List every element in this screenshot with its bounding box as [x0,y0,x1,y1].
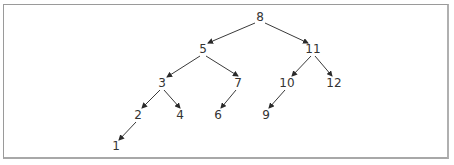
node-10: 10 [279,76,294,90]
node-5: 5 [199,42,207,56]
edge-3-4 [164,90,180,108]
node-12: 12 [326,76,341,90]
tree-diagram: 8 5 11 3 7 10 12 2 4 6 9 1 [0,0,454,165]
edge-11-10 [292,56,311,76]
node-3: 3 [158,76,166,90]
edge-5-7 [206,56,238,76]
edge-5-3 [167,56,200,77]
node-9: 9 [262,108,270,122]
node-2: 2 [134,108,142,122]
edge-3-2 [142,90,160,108]
edge-8-11 [265,23,308,43]
edge-11-12 [315,56,332,76]
edge-10-9 [269,90,285,108]
node-11: 11 [305,42,320,56]
edge-8-5 [208,23,255,43]
node-8: 8 [256,10,264,24]
node-4: 4 [176,108,184,122]
edge-7-6 [221,90,236,108]
node-6: 6 [214,108,222,122]
edge-2-1 [119,122,136,140]
node-1: 1 [112,139,120,153]
node-7: 7 [234,76,242,90]
